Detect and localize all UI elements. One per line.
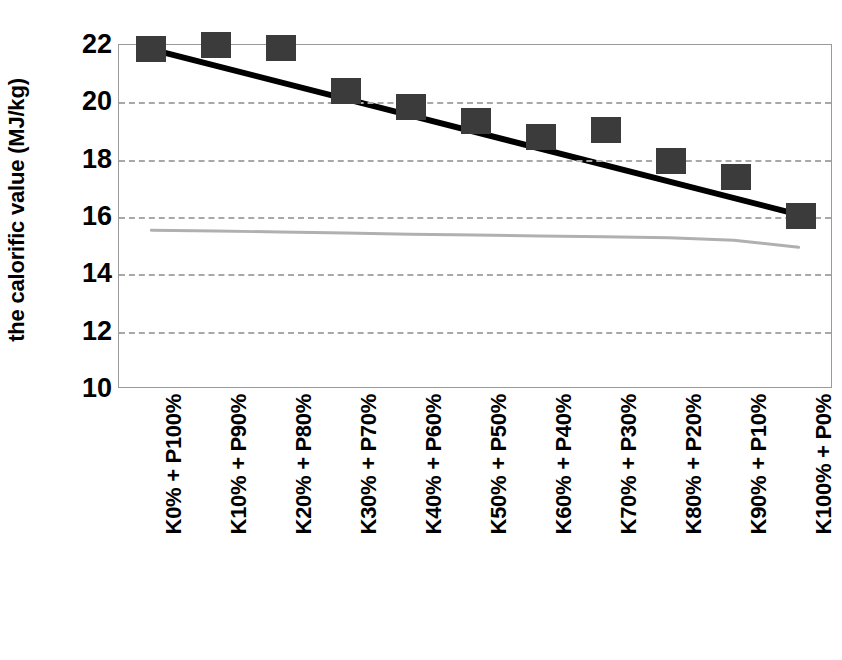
x-tick-label: K70% + P30%	[616, 394, 642, 624]
y-tick-label: 16	[54, 203, 112, 230]
data-point-marker	[526, 124, 556, 150]
chart-series-layer	[119, 45, 831, 387]
data-point-marker	[461, 108, 491, 134]
data-point-marker	[721, 164, 751, 190]
plot-area	[118, 44, 832, 388]
x-tick-label: K50% + P50%	[486, 394, 512, 624]
x-tick-label: K60% + P40%	[551, 394, 577, 624]
y-axis-title-text: the calorific value (MJ/kg)	[4, 78, 30, 342]
y-tick-label: 18	[54, 145, 112, 172]
x-tick-label: K40% + P60%	[421, 394, 447, 624]
data-point-marker	[136, 36, 166, 62]
y-tick-label: 22	[54, 31, 112, 58]
data-point-marker	[331, 78, 361, 104]
x-tick-label: K90% + P10%	[746, 394, 772, 624]
data-point-marker	[656, 148, 686, 174]
data-point-marker	[591, 117, 621, 143]
gridline	[119, 274, 831, 276]
y-axis-title: the calorific value (MJ/kg)	[0, 20, 34, 400]
gridline	[119, 332, 831, 334]
calorific-value-chart: the calorific value (MJ/kg) 222018161412…	[0, 0, 842, 660]
data-point-marker	[786, 203, 816, 229]
y-tick-label: 12	[54, 317, 112, 344]
x-axis-tick-labels: K0% + P100%K10% + P90%K20% + P80%K30% + …	[0, 388, 842, 618]
y-tick-label: 14	[54, 260, 112, 287]
data-point-marker	[266, 35, 296, 61]
gridline	[119, 160, 831, 162]
y-tick-label: 20	[54, 88, 112, 115]
x-tick-label: K0% + P100%	[161, 394, 187, 624]
data-point-marker	[396, 94, 426, 120]
gridline	[119, 217, 831, 219]
x-tick-label: K80% + P20%	[681, 394, 707, 624]
data-point-marker	[201, 32, 231, 58]
x-tick-label: K20% + P80%	[291, 394, 317, 624]
x-tick-label: K10% + P90%	[226, 394, 252, 624]
x-tick-label: K100% + P0%	[811, 394, 837, 624]
gridline	[119, 102, 831, 104]
x-tick-label: K30% + P70%	[356, 394, 382, 624]
grey-curve-line	[151, 230, 798, 247]
